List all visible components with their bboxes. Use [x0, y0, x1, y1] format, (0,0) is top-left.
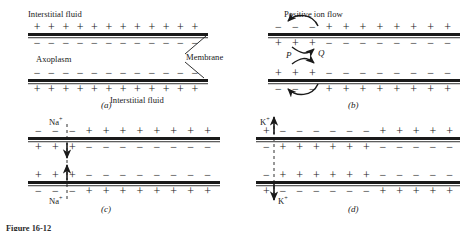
negative-charge: − [371, 38, 388, 49]
negative-charge: − [325, 186, 342, 197]
point-p-label: P [286, 50, 292, 60]
panel-b-outer-top-charges: −−−++++++++ [270, 22, 456, 33]
negative-charge: − [308, 186, 325, 197]
positive-charge: + [355, 84, 372, 95]
positive-charge: + [47, 142, 64, 153]
panel-a-inner-bottom-charges: −−−−−−−−−−−− [30, 68, 202, 79]
negative-charge: − [81, 170, 98, 181]
negative-charge: − [358, 126, 375, 137]
negative-charge: − [425, 170, 442, 181]
positive-charge: + [422, 84, 439, 95]
positive-charge: + [30, 142, 47, 153]
positive-charge: + [422, 22, 439, 33]
negative-charge: − [358, 186, 375, 197]
negative-charge: − [422, 68, 439, 79]
negative-charge: − [188, 38, 202, 49]
negative-charge: − [188, 68, 202, 79]
negative-charge: − [425, 142, 442, 153]
positive-charge: + [338, 22, 355, 33]
positive-charge: + [355, 22, 372, 33]
negative-charge: − [116, 38, 130, 49]
positive-charge: + [358, 142, 375, 153]
negative-charge: − [182, 142, 199, 153]
potassium-charge-bottom: + [284, 194, 288, 201]
negative-charge: − [165, 170, 182, 181]
negative-charge: − [308, 126, 325, 137]
negative-charge: − [199, 142, 216, 153]
negative-charge: − [47, 126, 64, 137]
point-q-label: Q [318, 48, 325, 58]
positive-charge: + [115, 186, 132, 197]
negative-charge: − [287, 84, 304, 95]
positive-charge: + [308, 170, 325, 181]
positive-charge: + [258, 186, 275, 197]
positive-charge: + [391, 186, 408, 197]
positive-charge: + [159, 22, 173, 33]
panel-d-inner-bottom-charges: −++++++−−−−− [258, 170, 458, 181]
negative-charge: − [304, 84, 321, 95]
positive-charge: + [44, 84, 58, 95]
negative-charge: − [182, 170, 199, 181]
positive-charge: + [341, 142, 358, 153]
negative-charge: − [64, 186, 81, 197]
panel-c-sodium-influx: Na+ −−−++++++++ +++−−−−−−−− +++−−−−−−−− … [0, 112, 234, 222]
positive-charge: + [291, 142, 308, 153]
positive-charge: + [81, 186, 98, 197]
positive-charge: + [87, 84, 101, 95]
negative-charge: − [441, 142, 458, 153]
positive-charge: + [173, 84, 187, 95]
negative-charge: − [115, 142, 132, 153]
positive-charge: + [287, 68, 304, 79]
negative-charge: − [148, 142, 165, 153]
panel-d-outer-top-charges: +−−−−−−+++++ [258, 126, 458, 137]
negative-charge: − [30, 38, 44, 49]
negative-charge: − [148, 170, 165, 181]
positive-charge: + [287, 38, 304, 49]
negative-charge: − [87, 38, 101, 49]
negative-charge: − [405, 38, 422, 49]
negative-charge: − [388, 68, 405, 79]
positive-charge: + [59, 84, 73, 95]
negative-charge: − [388, 38, 405, 49]
negative-charge: − [405, 68, 422, 79]
positive-charge: + [405, 22, 422, 33]
positive-charge: + [308, 142, 325, 153]
negative-charge: − [275, 126, 292, 137]
positive-charge: + [159, 84, 173, 95]
positive-charge: + [388, 22, 405, 33]
positive-charge: + [325, 142, 342, 153]
positive-charge: + [130, 84, 144, 95]
positive-charge: + [258, 126, 275, 137]
axoplasm-label: Axoplasm [36, 54, 71, 64]
panel-a-resting-membrane: Interstitial fluid ++++++++++++ −−−−−−−−… [0, 0, 234, 112]
negative-charge: − [115, 170, 132, 181]
positive-charge: + [87, 22, 101, 33]
positive-charge: + [291, 170, 308, 181]
negative-charge: − [145, 68, 159, 79]
positive-charge: + [425, 126, 442, 137]
positive-ion-flow-label: Positive ion flow [284, 9, 343, 19]
panel-c-letter: (c) [101, 204, 111, 214]
positive-charge: + [98, 126, 115, 137]
positive-charge: + [182, 186, 199, 197]
positive-charge: + [321, 84, 338, 95]
positive-charge: + [199, 126, 216, 137]
negative-charge: − [30, 68, 44, 79]
panel-a-inner-top-charges: −−−−−−−−−−−− [30, 38, 202, 49]
positive-charge: + [304, 68, 321, 79]
panel-c-outer-top-charges: −−−++++++++ [30, 126, 216, 137]
negative-charge: − [159, 38, 173, 49]
negative-charge: − [102, 68, 116, 79]
positive-charge: + [165, 126, 182, 137]
positive-charge: + [325, 170, 342, 181]
negative-charge: − [81, 142, 98, 153]
negative-charge: − [441, 170, 458, 181]
negative-charge: − [98, 170, 115, 181]
sodium-charge-top: + [59, 115, 63, 122]
positive-charge: + [358, 170, 375, 181]
nerve-impulse-figure: Interstitial fluid ++++++++++++ −−−−−−−−… [0, 0, 474, 231]
negative-charge: − [73, 38, 87, 49]
positive-charge: + [102, 84, 116, 95]
negative-charge: − [391, 142, 408, 153]
positive-charge: + [98, 186, 115, 197]
